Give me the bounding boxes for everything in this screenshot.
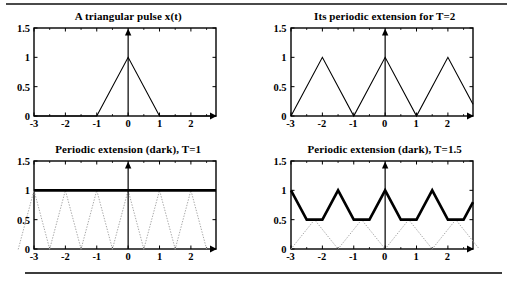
panel-periodic-extension-t1p5: Periodic extension (dark), T=1.5 00.511.…	[257, 139, 513, 272]
plot-area	[34, 28, 216, 116]
x-tick-label: -2	[318, 251, 327, 262]
panel-title: A triangular pulse x(t)	[0, 10, 257, 22]
plot-frame	[291, 28, 473, 116]
plot-svg	[34, 161, 216, 249]
panel-title: Periodic extension (dark), T=1	[0, 143, 257, 155]
y-tick-label: 1.5	[273, 23, 286, 34]
x-axis-labels: -3-2-1012	[34, 118, 216, 134]
x-tick-label: 1	[413, 118, 418, 129]
x-axis-labels: -3-2-1012	[291, 118, 473, 134]
plot-area	[291, 161, 473, 249]
data-curve	[291, 190, 473, 219]
y-axis-labels: 00.511.5	[257, 28, 287, 116]
bottom-divider-rule	[25, 272, 502, 274]
y-tick-label: 1.5	[17, 23, 30, 34]
plot-svg	[34, 28, 216, 116]
y-tick-label: 1	[25, 185, 30, 196]
dotted-component-curve	[291, 220, 338, 249]
plot-frame	[291, 161, 473, 249]
x-tick-label: 0	[126, 251, 131, 262]
x-tick-label: -1	[92, 118, 101, 129]
x-axis-labels: -3-2-1012	[34, 251, 216, 267]
plot-area	[34, 161, 216, 249]
y-axis-arrowhead	[381, 162, 387, 169]
y-tick-label: 1	[281, 52, 286, 63]
plot-area	[291, 28, 473, 116]
y-tick-label: 0.5	[17, 81, 30, 92]
x-tick-label: 0	[382, 118, 387, 129]
y-tick-label: 1.5	[17, 156, 30, 167]
y-axis-labels: 00.511.5	[0, 28, 30, 116]
y-tick-label: 0.5	[273, 81, 286, 92]
x-tick-label: -1	[349, 251, 358, 262]
y-tick-label: 1	[25, 52, 30, 63]
y-axis-labels: 00.511.5	[0, 161, 30, 249]
dotted-component-curve	[385, 220, 432, 249]
data-curve	[291, 57, 473, 116]
panel-periodic-extension-t2: Its periodic extension for T=2 00.511.5 …	[257, 6, 513, 139]
x-tick-label: -2	[61, 251, 70, 262]
plot-content	[291, 28, 474, 119]
y-axis-arrowhead	[381, 29, 387, 36]
y-axis-arrowhead	[125, 29, 131, 36]
x-tick-label: 1	[157, 118, 162, 129]
panel-periodic-extension-t1: Periodic extension (dark), T=1 00.511.5 …	[0, 139, 257, 272]
x-tick-label: -3	[286, 118, 295, 129]
dotted-component-curve	[50, 190, 81, 249]
x-tick-label: -3	[286, 251, 295, 262]
plot-svg	[291, 28, 473, 116]
plot-svg	[291, 161, 473, 249]
x-tick-label: 1	[157, 251, 162, 262]
x-tick-label: 0	[382, 251, 387, 262]
x-tick-label: 2	[188, 118, 193, 129]
x-tick-label: -3	[30, 118, 39, 129]
x-tick-label: 2	[445, 251, 450, 262]
dotted-component-curve	[338, 220, 385, 249]
y-axis-arrowhead	[125, 162, 131, 169]
top-divider-rule	[6, 3, 507, 5]
x-tick-label: 2	[188, 251, 193, 262]
x-tick-label: -1	[92, 251, 101, 262]
dotted-component-curve	[144, 190, 175, 249]
y-tick-label: 1.5	[273, 156, 286, 167]
dotted-component-curve	[175, 190, 206, 249]
x-tick-label: 0	[126, 118, 131, 129]
x-tick-label: 1	[413, 251, 418, 262]
x-axis-labels: -3-2-1012	[291, 251, 473, 267]
plot-frame	[34, 28, 216, 116]
x-tick-label: -3	[30, 251, 39, 262]
data-curve	[34, 57, 216, 116]
x-tick-label: 2	[445, 118, 450, 129]
panel-title: Periodic extension (dark), T=1.5	[257, 143, 513, 155]
panel-title: Its periodic extension for T=2	[257, 10, 513, 22]
plot-content	[291, 161, 479, 252]
x-tick-label: -2	[318, 118, 327, 129]
plot-content	[34, 28, 217, 119]
panel-triangular-pulse: A triangular pulse x(t) 00.511.5 -3-2-10…	[0, 6, 257, 139]
y-tick-label: 0.5	[17, 214, 30, 225]
x-tick-label: -1	[349, 118, 358, 129]
dotted-component-curve	[432, 220, 479, 249]
y-axis-labels: 00.511.5	[257, 161, 287, 249]
y-tick-label: 1	[281, 185, 286, 196]
dotted-component-curve	[81, 190, 112, 249]
x-tick-label: -2	[61, 118, 70, 129]
plot-content	[18, 161, 216, 252]
figure-panel-grid: A triangular pulse x(t) 00.511.5 -3-2-10…	[0, 6, 513, 272]
y-tick-label: 0.5	[273, 214, 286, 225]
